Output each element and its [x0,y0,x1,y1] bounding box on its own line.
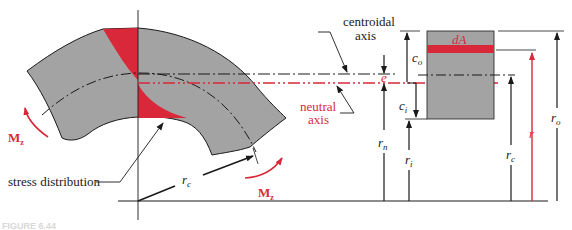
centroidal-axis-label-2: axis [355,28,376,43]
moment-left-label: Mz [8,130,24,147]
figure-caption-fragment: FIGURE 6.44 [2,221,56,230]
r-element-label: r [529,126,535,141]
curved-beam-diagram: rc stress distribution Mz Mz centroidal … [0,0,572,230]
c-outer-label: co [412,50,423,67]
area-element-label: dA [452,32,467,47]
c-inner-label: ci [399,98,408,115]
stress-distribution-leader [96,123,163,182]
stress-distribution-label: stress distribution [8,174,101,189]
r-centroid-label: rc [506,147,515,164]
neutral-axis-label-2: axis [308,112,329,127]
moment-right-label: Mz [258,185,274,202]
neutral-axis-leader [337,86,354,113]
radius-centroid-arrow [138,186,175,201]
centroidal-axis-label-1: centroidal [343,14,395,29]
radius-centroid-arrow-tip [203,156,253,175]
r-inner-label: ri [405,152,413,169]
moment-right-arrow [245,158,282,178]
radius-centroid-label: rc [182,172,191,189]
centroidal-axis-leader [318,32,347,72]
eccentricity-label: e [381,70,387,85]
r-neutral-label: rn [378,135,388,152]
r-outer-label: ro [551,110,561,127]
